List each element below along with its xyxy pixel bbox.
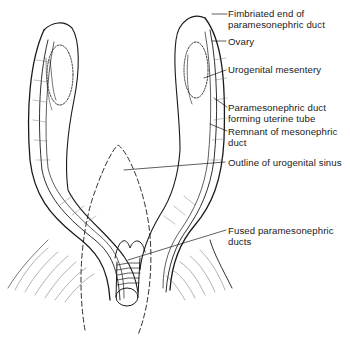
label-fimbriated-end: Fimbriated end of paramesonephric duct — [228, 8, 325, 30]
label-paramesonephric-duct-uterine-tube: Paramesonephric duct forming uterine tub… — [228, 102, 326, 124]
diagram-canvas: Fimbriated end of paramesonephric duct O… — [0, 0, 350, 340]
label-mesonephric-remnant: Remnant of mesonephric duct — [228, 126, 337, 148]
duct-illustration — [0, 0, 350, 340]
label-fused-paramesonephric-ducts: Fused paramesonephric ducts — [228, 225, 334, 247]
label-urogenital-sinus-outline: Outline of urogenital sinus — [228, 157, 342, 168]
label-urogenital-mesentery: Urogenital mesentery — [228, 64, 321, 75]
label-ovary: Ovary — [228, 36, 254, 47]
